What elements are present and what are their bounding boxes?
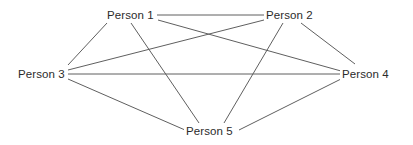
edge-person1-person4 [158, 20, 341, 71]
diagram-canvas: Person 1Person 2Person 3Person 4Person 5 [0, 0, 413, 145]
node-label-person1[interactable]: Person 1 [105, 8, 156, 22]
node-label-person3[interactable]: Person 3 [16, 67, 67, 81]
edge-person2-person4 [301, 23, 355, 64]
node-label-person2[interactable]: Person 2 [264, 8, 315, 22]
node-label-person5[interactable]: Person 5 [184, 124, 235, 138]
edge-person2-person5 [224, 23, 283, 123]
edge-person2-person3 [68, 20, 264, 70]
edge-person3-person5 [68, 79, 185, 130]
node-label-person4[interactable]: Person 4 [340, 67, 391, 81]
edge-person4-person5 [239, 79, 341, 130]
edge-person1-person3 [68, 23, 107, 65]
edge-person1-person5 [131, 23, 199, 123]
